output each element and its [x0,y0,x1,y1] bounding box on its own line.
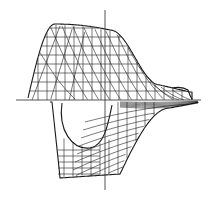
upper-diagonal [40,52,75,99]
upper-diagonal [117,35,154,100]
lower-mesh [50,101,198,178]
lower-curve [79,126,144,146]
upper-mesh [28,24,192,100]
wireframe-diagram [0,0,213,202]
lower-curve [83,113,155,130]
lower-outline [50,102,198,178]
upper-frame-line [69,32,84,100]
lower-opening [61,103,112,148]
lower-curve [81,120,149,139]
